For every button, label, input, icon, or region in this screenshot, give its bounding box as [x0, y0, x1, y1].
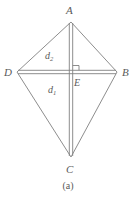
vertex-label-d: D — [4, 67, 12, 78]
kite-figure: A B C D E d2 d1 (a) — [0, 0, 136, 201]
vertex-label-a: A — [66, 5, 73, 16]
diagonal-d2-horizontal — [18, 70, 116, 73]
diagonal-d1-subscript: 1 — [53, 89, 56, 96]
vertex-label-b: B — [122, 67, 129, 78]
vertex-label-c: C — [66, 164, 73, 175]
figure-caption: (a) — [0, 180, 136, 192]
vertex-label-e: E — [74, 77, 80, 88]
right-angle-mark-icon — [73, 66, 79, 71]
kite-outline — [17, 22, 117, 157]
diagonal-label-d2: d2 — [45, 51, 53, 62]
diagonal-label-d1: d1 — [48, 85, 56, 96]
diagonal-d2-subscript: 2 — [50, 55, 53, 62]
diagonal-d1-vertical — [69, 23, 72, 156]
